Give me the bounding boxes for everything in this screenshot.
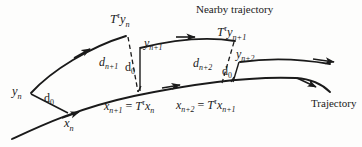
label-d-0-right-sub: 0 — [228, 71, 232, 80]
label-x-n-plus-2-rhs-sub: n+1 — [222, 105, 235, 114]
label-d-n-plus-2-sub: n+2 — [199, 63, 212, 72]
label-d-0-middle-sub: 0 — [131, 67, 135, 76]
label-x-n-plus-2-equation: xn+2=Tτxn+1 — [176, 98, 235, 114]
caption-trajectory: Trajectory — [311, 98, 356, 109]
label-x-n-sub: n — [70, 124, 74, 133]
label-y-n-plus-2: yn+2 — [236, 48, 255, 63]
label-x-n-plus-1-rhs-sub: n — [150, 106, 154, 115]
label-x-n-plus-1-equals: = — [123, 99, 136, 113]
label-y-n-plus-1-sub: n+1 — [149, 43, 162, 52]
label-T-tau-y-n-plus-1-sub: n+1 — [232, 33, 246, 42]
label-T-tau-y-n-base: T — [110, 12, 117, 26]
label-T-tau-y-n-plus-1: Tτyn+1 — [217, 25, 246, 42]
label-d-0-right: d0 — [222, 65, 232, 80]
label-x-n-plus-2-equals: = — [195, 98, 208, 112]
upper-nearby-trajectory-curve — [31, 36, 330, 93]
label-d-0-middle: d0 — [125, 61, 135, 76]
label-T-tau-y-n-plus-1-base: T — [217, 25, 224, 39]
label-x-n-plus-1-equation: xn+1=Tτxn — [104, 99, 154, 115]
label-x-n-plus-1-lhs-sub: n+1 — [109, 106, 122, 115]
label-y-n: yn — [12, 85, 22, 101]
label-x-n-plus-2-lhs-sub: n+2 — [181, 105, 194, 114]
label-x-n: xn — [64, 117, 74, 133]
label-d-0-left-sub: 0 — [50, 98, 54, 107]
label-T-tau-y-n-sub: n — [125, 20, 129, 29]
label-d-0-left: d0 — [44, 92, 54, 107]
point-tick-marks — [138, 77, 234, 92]
trajectory-divergence-figure: Tτyn Nearby trajectory Tτyn+1 yn+1 yn+2 … — [0, 0, 362, 147]
label-d-n-plus-2: dn+2 — [193, 57, 212, 72]
label-y-n-sub: n — [18, 92, 22, 101]
label-T-tau-y-n: Tτyn — [110, 12, 130, 29]
figure-vector-canvas — [0, 0, 362, 147]
label-y-n-plus-1: yn+1 — [144, 37, 163, 52]
label-d-n-plus-1-sub: n+1 — [105, 62, 118, 71]
label-y-n-plus-2-sub: n+2 — [241, 54, 254, 63]
label-d-n-plus-1: dn+1 — [99, 56, 118, 71]
caption-nearby-trajectory: Nearby trajectory — [196, 4, 273, 15]
